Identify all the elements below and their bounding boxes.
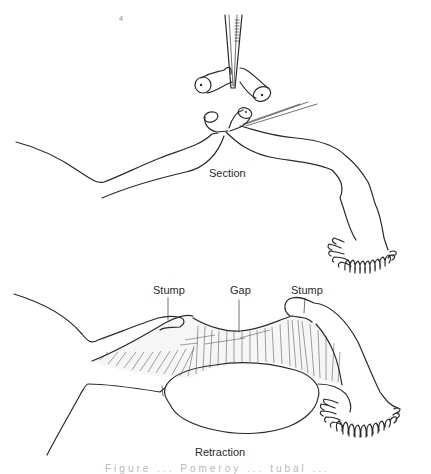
fallopian-tube-right xyxy=(226,126,388,250)
leader-stump-right xyxy=(304,298,305,313)
fallopian-tube-left xyxy=(16,133,224,198)
forceps-icon xyxy=(225,15,242,88)
uterine-body xyxy=(47,384,165,455)
section-label: Section xyxy=(209,167,246,179)
section-panel xyxy=(16,15,396,273)
fimbriae xyxy=(320,399,400,437)
figure-caption-partial: Figure ... Pomeroy ... tubal ... xyxy=(105,463,330,474)
retraction-label: Retraction xyxy=(195,446,245,458)
stump-left-label: Stump xyxy=(153,284,185,296)
suture-thread xyxy=(243,102,317,126)
retraction-panel xyxy=(14,294,400,455)
gap-label: Gap xyxy=(230,284,251,296)
stump-right-label: Stump xyxy=(291,284,323,296)
mesosalpinx-gap xyxy=(92,315,342,385)
